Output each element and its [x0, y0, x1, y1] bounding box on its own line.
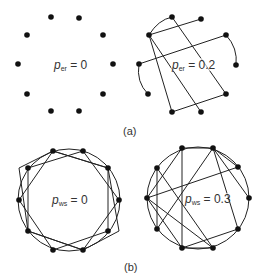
network-diagram: per = 0 per = 0.2 (a): [0, 0, 263, 279]
panel-er-0.2: per = 0.2: [136, 14, 239, 115]
panel-ws-0: pws = 0: [16, 148, 122, 253]
node: [48, 14, 54, 20]
caption-a: (a): [123, 125, 136, 137]
node: [100, 91, 106, 97]
ws0-label: pws = 0: [51, 193, 88, 207]
node: [24, 32, 30, 38]
caption-b: (b): [124, 261, 137, 273]
node: [100, 32, 106, 38]
node: [110, 61, 116, 67]
panel-ws-0.3: pws = 0.3: [144, 145, 252, 251]
ws3-label: pws = 0.3: [184, 192, 231, 206]
node: [24, 91, 30, 97]
panel-er-0: per = 0: [15, 14, 116, 114]
node: [76, 15, 82, 21]
node: [76, 108, 82, 114]
node: [48, 108, 54, 114]
er0-label: per = 0: [53, 58, 88, 72]
node: [15, 61, 21, 67]
er2-label: per = 0.2: [171, 58, 216, 72]
